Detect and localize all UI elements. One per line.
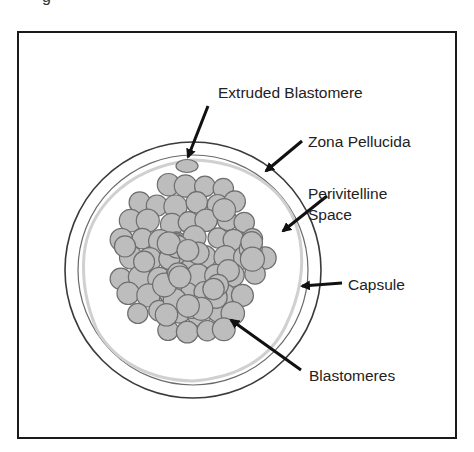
blastomere-cell — [128, 303, 148, 323]
blastomere-cell — [155, 304, 177, 326]
blastomere-cell — [177, 295, 200, 318]
extruded-blastomere — [176, 160, 198, 173]
blastomere-cell — [240, 247, 264, 271]
arrow-extruded-blastomere — [188, 106, 208, 157]
embryo-diagram — [0, 0, 474, 452]
blastomere-cell — [176, 321, 198, 343]
blastomere-cell — [169, 266, 191, 288]
label-blastomeres: Blastomeres — [309, 366, 395, 385]
blastomere-cell — [213, 199, 236, 222]
arrow-blastomeres — [231, 320, 301, 370]
blastomere-cell — [114, 236, 135, 257]
label-perivitelline: Perivitelline — [308, 184, 387, 203]
blastomere-cell — [117, 282, 139, 304]
arrow-capsule — [302, 283, 342, 286]
blastomere-cell — [203, 278, 224, 299]
blastomere-cell — [134, 251, 155, 272]
label-extruded-blastomere: Extruded Blastomere — [218, 83, 363, 102]
label-capsule: Capsule — [348, 275, 405, 294]
label-space: Space — [308, 205, 352, 224]
blastomere-cell — [177, 240, 199, 262]
label-zona-pellucida: Zona Pellucida — [308, 132, 411, 151]
arrow-zona-pellucida — [266, 141, 302, 171]
blastomere-cluster — [110, 174, 276, 343]
